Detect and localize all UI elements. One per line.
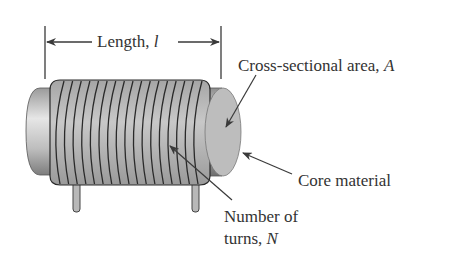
length-symbol: l bbox=[154, 32, 159, 51]
cross-sectional-area-label: Cross-sectional area, A bbox=[238, 57, 394, 74]
length-label-text: Length, bbox=[97, 32, 154, 51]
inductor-diagram: Length, l Cross-sectional area, A Core m… bbox=[0, 0, 457, 255]
turns-label-text-2: turns, bbox=[224, 229, 267, 248]
coil-winding bbox=[50, 80, 210, 185]
area-symbol: A bbox=[384, 56, 394, 75]
turns-label-text-1: Number of bbox=[224, 207, 298, 226]
length-label: Length, l bbox=[97, 33, 158, 50]
turns-label-line1: Number of bbox=[224, 208, 298, 225]
core-material-label: Core material bbox=[298, 172, 391, 189]
core-label-text: Core material bbox=[298, 171, 391, 190]
area-label-text: Cross-sectional area, bbox=[238, 56, 384, 75]
turns-symbol: N bbox=[267, 229, 278, 248]
core-pointer-arrow-icon bbox=[243, 153, 292, 174]
core-face bbox=[205, 88, 241, 176]
turns-label-line2: turns, N bbox=[224, 230, 278, 247]
